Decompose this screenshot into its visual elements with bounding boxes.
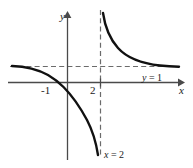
y-axis-label: y <box>60 11 65 22</box>
curve-left-branch <box>12 66 98 155</box>
horizontal-asymptote-equation: = 1 <box>146 72 162 83</box>
function-graph-figure: y x -1 2 y = 1 x = 2 <box>0 0 193 168</box>
x-tick-label-neg1: -1 <box>41 85 50 96</box>
curve-right-branch <box>103 13 179 67</box>
plot-canvas <box>0 0 193 168</box>
x-axis-label: x <box>179 85 184 96</box>
vertical-asymptote-equation: = 2 <box>108 149 124 160</box>
x-tick-label-2: 2 <box>90 85 96 96</box>
horizontal-asymptote-label: y = 1 <box>142 73 162 83</box>
vertical-asymptote-label: x = 2 <box>104 150 124 160</box>
